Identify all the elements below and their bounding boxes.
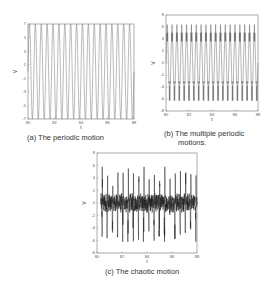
svg-text:82: 82 <box>120 254 125 259</box>
svg-text:88: 88 <box>195 254 200 259</box>
svg-text:-4: -4 <box>91 225 95 230</box>
svg-text:V: V <box>81 201 87 205</box>
svg-text:8: 8 <box>93 150 96 155</box>
svg-text:0: 0 <box>93 200 96 205</box>
svg-text:-6: -6 <box>91 238 95 243</box>
svg-text:-2: -2 <box>91 213 95 218</box>
caption-c: (c) The chaotic motion <box>105 267 179 276</box>
svg-text:4: 4 <box>93 175 96 180</box>
svg-text:80: 80 <box>95 254 100 259</box>
svg-text:2: 2 <box>93 188 96 193</box>
svg-text:6: 6 <box>93 163 96 168</box>
chart-c-plot: 86420-2-4-6-88082848688tV <box>0 0 269 270</box>
svg-text:86: 86 <box>170 254 175 259</box>
chart-c-chaotic-motion: 86420-2-4-6-88082848688tV <box>0 0 269 287</box>
